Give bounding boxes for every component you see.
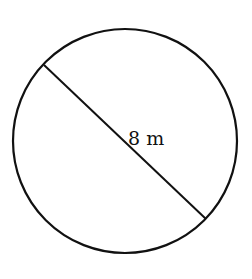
- diameter-line: [44, 65, 206, 219]
- circle-diagram: 8 m: [0, 0, 252, 279]
- diameter-label: 8 m: [128, 127, 164, 149]
